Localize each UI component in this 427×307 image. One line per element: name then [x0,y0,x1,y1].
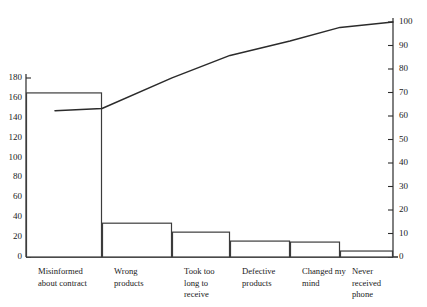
right-axis-tick-label: 90 [399,41,408,50]
right-axis-tick-label: 70 [399,88,408,97]
bar-group [27,93,393,257]
bar [341,251,393,257]
right-axis-tick-label: 60 [399,111,408,120]
left-axis-tick-label: 180 [0,73,22,82]
right-axis-tick-label: 20 [399,205,408,214]
bar [27,93,102,257]
cumulative-line [55,22,393,111]
right-axis-ticks [388,22,393,257]
bar [103,223,172,257]
right-axis-tick-label: 40 [399,158,408,167]
left-axis-tick-label: 140 [0,113,22,122]
left-axis-tick-label: 160 [0,93,22,102]
left-axis-tick-label: 40 [0,212,22,221]
right-axis-tick-label: 50 [399,135,408,144]
right-axis-tick-label: 10 [399,229,408,238]
bar [291,242,340,257]
left-axis-tick-label: 80 [0,172,22,181]
pareto-chart: 020406080100120140160180 010203040506070… [0,0,427,307]
right-axis-tick-label: 80 [399,64,408,73]
left-axis-tick-label: 0 [0,252,22,261]
bar [173,232,230,257]
bar [231,241,290,257]
category-label: Never received phone [352,266,427,301]
chart-canvas [0,0,427,307]
left-axis-tick-label: 60 [0,192,22,201]
left-axis-tick-label: 120 [0,133,22,142]
right-axis-tick-label: 0 [399,252,404,261]
right-axis-tick-label: 100 [399,17,413,26]
left-axis-tick-label: 100 [0,153,22,162]
left-axis-tick-label: 20 [0,232,22,241]
right-axis-tick-label: 30 [399,182,408,191]
